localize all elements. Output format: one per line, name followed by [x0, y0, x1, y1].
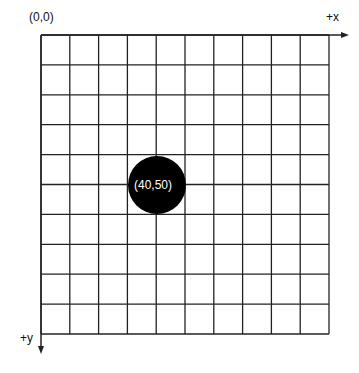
y-axis-label: +y — [20, 331, 33, 345]
origin-label: (0,0) — [29, 10, 54, 24]
point-label: (40,50) — [134, 178, 172, 192]
coordinate-grid — [0, 0, 359, 373]
x-axis-label: +x — [326, 10, 339, 24]
